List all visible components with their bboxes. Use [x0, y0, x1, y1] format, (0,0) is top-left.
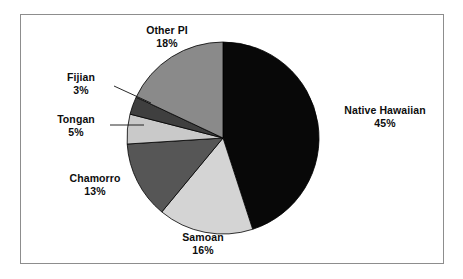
pie-label-other-pi-name: Other PI	[124, 24, 210, 37]
pie-label-tongan-value: 5%	[40, 126, 112, 139]
pie-label-samoan-value: 16%	[163, 244, 243, 257]
pie-label-native-hawaiian-value: 45%	[330, 117, 440, 130]
pie-label-native-hawaiian: Native Hawaiian 45%	[330, 104, 440, 130]
pie-label-tongan-name: Tongan	[40, 113, 112, 126]
pie-label-chamorro-value: 13%	[50, 185, 140, 198]
pie-label-chamorro: Chamorro 13%	[50, 172, 140, 198]
pie-label-samoan: Samoan 16%	[163, 231, 243, 257]
pie-label-fijian-value: 3%	[48, 84, 114, 97]
pie-label-other-pi: Other PI 18%	[124, 24, 210, 50]
pie-label-native-hawaiian-name: Native Hawaiian	[330, 104, 440, 117]
pie-label-samoan-name: Samoan	[163, 231, 243, 244]
pie-slice-group	[127, 42, 319, 234]
pie-label-fijian: Fijian 3%	[48, 71, 114, 97]
pie-label-chamorro-name: Chamorro	[50, 172, 140, 185]
pie-label-tongan: Tongan 5%	[40, 113, 112, 139]
pie-label-fijian-name: Fijian	[48, 71, 114, 84]
pie-label-other-pi-value: 18%	[124, 37, 210, 50]
